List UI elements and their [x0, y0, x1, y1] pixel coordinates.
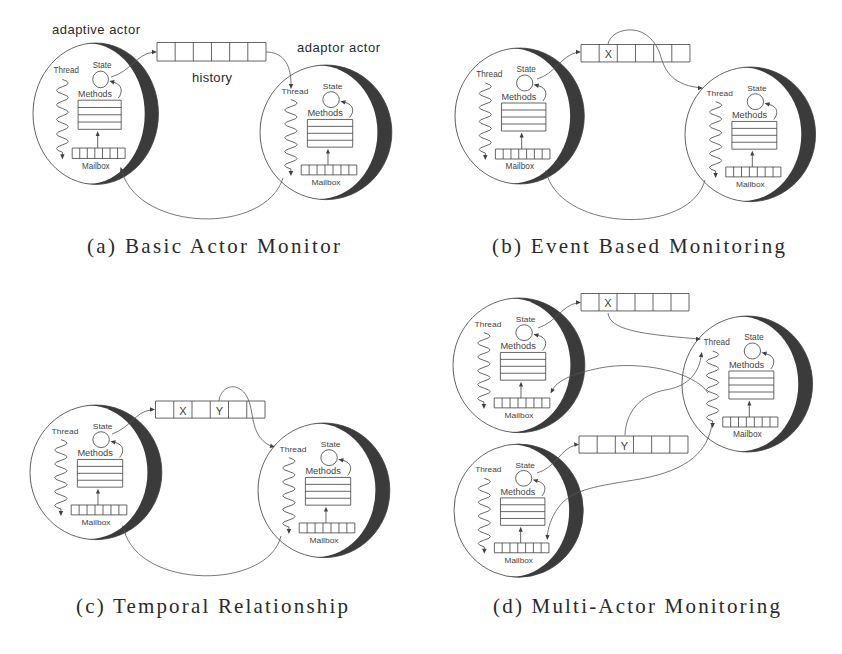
caption-d: (d) Multi-Actor Monitoring	[493, 594, 781, 618]
thread-label: Thread	[475, 466, 501, 475]
methods-label: Methods	[307, 109, 343, 119]
methods-label: Methods	[729, 360, 765, 370]
thread-label: Thread	[280, 445, 307, 454]
adaptive-actor-label: adaptive actor	[52, 22, 141, 37]
mailbox-label: Mailbox	[82, 518, 112, 527]
methods-label: Methods	[500, 487, 535, 497]
history-label: history	[192, 70, 233, 85]
mailbox-label: Mailbox	[506, 162, 535, 171]
methods-label: Methods	[501, 92, 536, 102]
thread-label: Thread	[703, 338, 730, 347]
thread-label: Thread	[282, 87, 309, 96]
mailbox-label: Mailbox	[505, 411, 535, 420]
mailbox-label: Mailbox	[736, 180, 766, 189]
state-label: State	[516, 461, 536, 470]
adaptive-actor-top: Thread State Methods Mailbox	[453, 298, 585, 433]
mailbox-label: Mailbox	[312, 178, 342, 187]
state-label: State	[747, 84, 767, 93]
history-cell-event-x: X	[179, 405, 187, 417]
mailbox-label: Mailbox	[310, 536, 340, 545]
adaptive-actor: Thread State Methods Mailbox	[33, 43, 158, 184]
state-label: State	[744, 333, 764, 342]
state-label: State	[321, 440, 341, 449]
state-label: State	[93, 61, 112, 70]
state-label: State	[517, 65, 537, 74]
state-label: State	[516, 315, 536, 324]
mailbox-label: Mailbox	[733, 430, 763, 439]
adaptor-actor: Thread State Methods Mailbox	[682, 316, 813, 452]
history-cell-event-x: X	[604, 297, 612, 309]
adaptive-actor: Thread State Methods Mailbox	[455, 48, 584, 184]
thread-label: Thread	[52, 427, 79, 436]
history-cell-event-y: Y	[216, 405, 224, 417]
thread-label: Thread	[54, 66, 80, 75]
methods-label: Methods	[78, 89, 112, 99]
thread-label: Thread	[475, 320, 502, 329]
thread-label: Thread	[476, 70, 503, 79]
methods-label: Methods	[732, 111, 768, 121]
methods-label: Methods	[77, 449, 113, 459]
thread-label: Thread	[706, 89, 733, 98]
adaptive-actor-bottom: Thread State Methods Mailbox	[454, 444, 583, 577]
methods-label: Methods	[500, 342, 536, 352]
adaptor-actor: Thread State Methods Mailbox	[260, 65, 392, 200]
adaptive-actor: Thread State Methods Mailbox	[30, 405, 162, 540]
adaptor-actor: Thread State Methods Mailbox	[258, 423, 390, 558]
caption-c: (c) Temporal Relationship	[76, 594, 348, 618]
caption-b: (b) Event Based Monitoring	[492, 234, 786, 258]
mailbox-label: Mailbox	[505, 556, 533, 565]
methods-label: Methods	[305, 467, 341, 477]
mailbox-label: Mailbox	[82, 162, 110, 171]
adaptor-actor-label: adaptor actor	[297, 40, 381, 55]
state-label: State	[93, 422, 113, 431]
history-cell-event: X	[605, 48, 613, 60]
state-label: State	[323, 82, 343, 91]
history-cell-event-y: Y	[621, 440, 629, 452]
actor-monitoring-figure: adaptive actor adaptor actor history Thr…	[0, 0, 842, 654]
